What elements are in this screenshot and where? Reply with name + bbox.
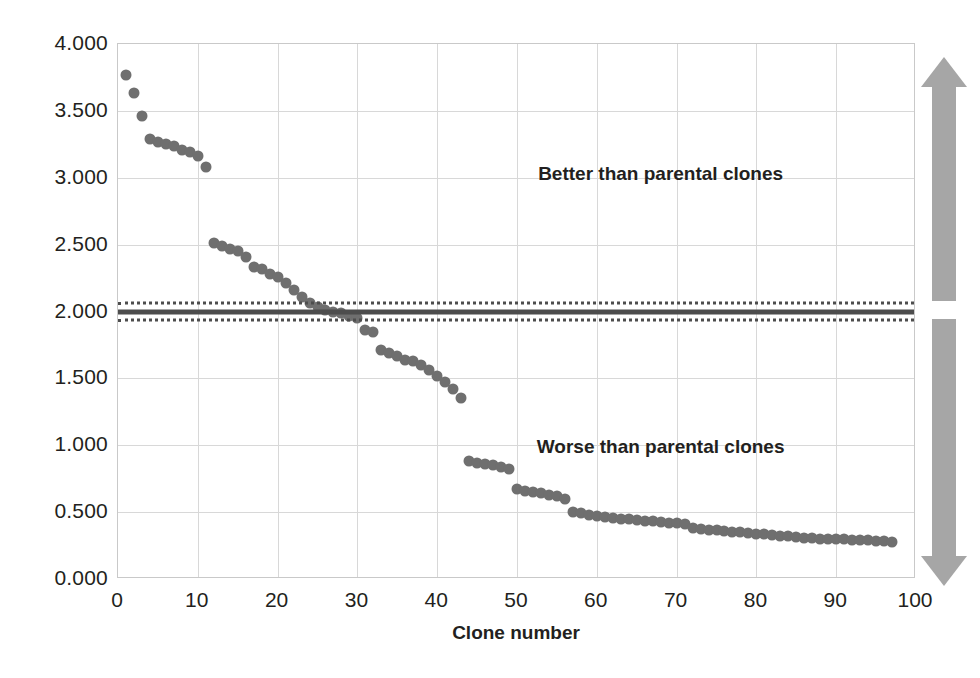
data-point <box>887 536 898 547</box>
parental-threshold <box>118 309 914 314</box>
x-axis-tick-label: 10 <box>157 588 237 612</box>
x-axis-tick-label: 20 <box>237 588 317 612</box>
data-point <box>456 393 467 404</box>
x-axis-tick-label: 0 <box>77 588 157 612</box>
x-axis-tick-label: 70 <box>636 588 716 612</box>
data-point <box>368 326 379 337</box>
x-axis-title: Clone number <box>117 622 915 644</box>
lower-dotted-threshold <box>118 318 914 321</box>
x-axis-tick-label: 30 <box>316 588 396 612</box>
y-axis-tick-label: 3.500 <box>0 98 108 122</box>
data-point <box>240 251 251 262</box>
plot-area: Better than parental clonesWorse than pa… <box>117 43 915 578</box>
y-axis-tick-label: 3.000 <box>0 165 108 189</box>
y-axis-tick-label: 0.000 <box>0 566 108 590</box>
worse-region-label: Worse than parental clones <box>537 436 785 458</box>
x-axis-tick-label: 60 <box>556 588 636 612</box>
x-axis-tick-label: 90 <box>795 588 875 612</box>
better-region-label: Better than parental clones <box>538 163 783 185</box>
upper-dotted-threshold <box>118 302 914 305</box>
data-point <box>128 88 139 99</box>
data-point <box>192 151 203 162</box>
chart-page: Absorbance at 405 nm Clone number 0.0000… <box>0 0 980 678</box>
worse-arrow-down <box>921 319 967 587</box>
y-axis-tick-label: 2.500 <box>0 232 108 256</box>
data-point <box>200 162 211 173</box>
arrow-down-icon <box>921 556 967 586</box>
data-point <box>120 69 131 80</box>
gridline-horizontal <box>118 378 914 379</box>
gridline-horizontal <box>118 111 914 112</box>
arrow-down-shaft <box>932 319 956 558</box>
data-point <box>136 111 147 122</box>
gridline-horizontal <box>118 178 914 179</box>
x-axis-tick-label: 100 <box>875 588 955 612</box>
better-arrow-up <box>921 57 967 301</box>
arrow-up-shaft <box>932 86 956 301</box>
x-axis-tick-label: 80 <box>715 588 795 612</box>
y-axis-tick-label: 4.000 <box>0 31 108 55</box>
gridline-horizontal <box>118 512 914 513</box>
y-axis-tick-label: 1.500 <box>0 365 108 389</box>
x-axis-tick-label: 50 <box>476 588 556 612</box>
gridline-horizontal <box>118 445 914 446</box>
y-axis-tick-label: 2.000 <box>0 299 108 323</box>
y-axis-tick-label: 1.000 <box>0 432 108 456</box>
x-axis-tick-label: 40 <box>396 588 476 612</box>
y-axis-tick-label: 0.500 <box>0 499 108 523</box>
data-point <box>448 384 459 395</box>
data-point <box>504 464 515 475</box>
arrow-up-icon <box>921 57 967 87</box>
data-point <box>559 493 570 504</box>
